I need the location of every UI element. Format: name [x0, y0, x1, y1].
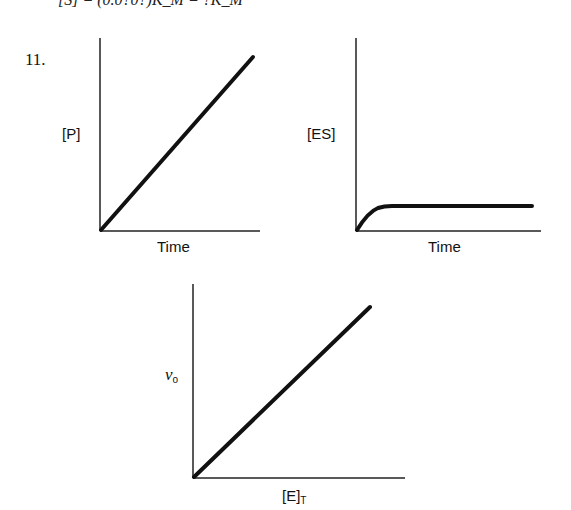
y-label-main: v: [165, 365, 173, 384]
y-axis-label-vo: vo: [165, 365, 178, 385]
x-axis-label-time-1: Time: [157, 238, 190, 255]
chart-velocity-vs-enzyme: [193, 284, 405, 478]
y-label-subscript: o: [173, 374, 179, 385]
data-line: [194, 307, 370, 477]
data-line: [101, 57, 253, 230]
x-axis-label-et: [E]T: [282, 487, 306, 506]
y-axis-label-es: [ES]: [307, 125, 335, 142]
figures-svg: [0, 0, 571, 510]
x-axis-label-time-2: Time: [428, 238, 461, 255]
textbook-page: [S] = (0.0?0?)K_M = ?K_M 11. [P] Time [E…: [0, 0, 571, 510]
x-label-main: [E]: [282, 487, 300, 504]
data-curve: [357, 206, 532, 230]
y-axis-label-p: [P]: [62, 125, 80, 142]
chart-product-vs-time: [100, 38, 260, 231]
x-label-subscript: T: [300, 495, 306, 506]
chart-es-vs-time: [356, 38, 541, 231]
